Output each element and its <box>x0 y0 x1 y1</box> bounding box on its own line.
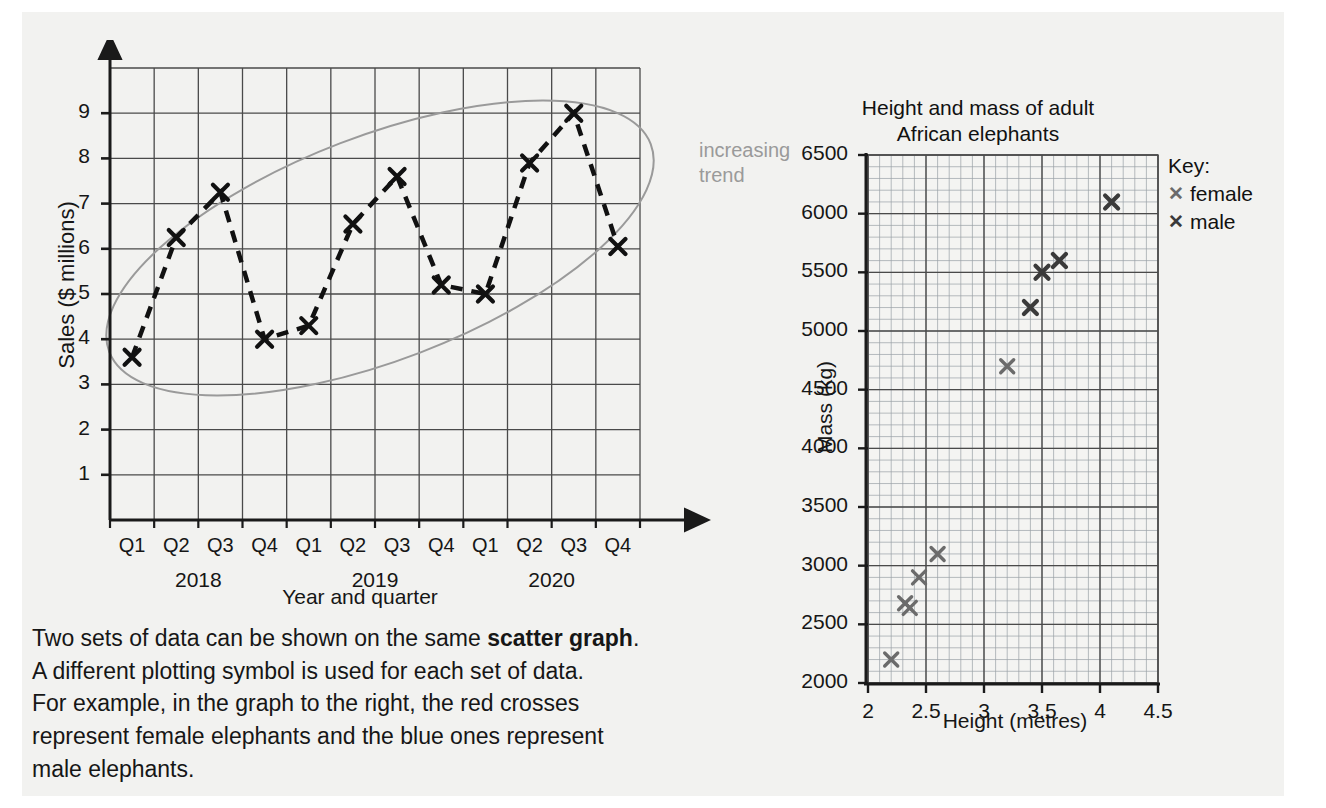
paragraph-line-4: represent female elephants and the blue … <box>32 720 772 753</box>
quarter-label-0: Q1 <box>109 534 155 557</box>
quarter-label-8: Q1 <box>462 534 508 557</box>
legend-item-female: ✕ female <box>1168 180 1253 208</box>
y-axis-title: Sales ($ millions) <box>54 140 80 430</box>
quarter-label-7: Q4 <box>418 534 464 557</box>
legend-title: Key: <box>1168 152 1253 180</box>
scatter-chart: Height and mass of adult African elephan… <box>790 95 1290 735</box>
mass-tick-label-2000: 2000 <box>776 669 848 693</box>
quarter-label-1: Q2 <box>153 534 199 557</box>
paragraph-line-2: A different plotting symbol is used for … <box>32 655 772 688</box>
paragraph-line-1-a: Two sets of data can be shown on the sam… <box>32 625 487 651</box>
paragraph-line-5: male elephants. <box>32 753 772 786</box>
quarter-label-5: Q2 <box>330 534 376 557</box>
paragraph-line-3: For example, in the graph to the right, … <box>32 687 772 720</box>
scatter-graph-term: scatter graph <box>487 625 633 651</box>
quarter-label-6: Q3 <box>374 534 420 557</box>
paragraph-line-1-c: . <box>633 625 639 651</box>
quarter-label-11: Q4 <box>595 534 641 557</box>
mass-tick-label-3000: 3000 <box>776 552 848 576</box>
mass-tick-label-6500: 6500 <box>776 141 848 165</box>
mass-tick-label-5500: 5500 <box>776 258 848 282</box>
y-tick-label-1: 1 <box>60 461 90 485</box>
mass-tick-label-5000: 5000 <box>776 317 848 341</box>
quarter-label-3: Q4 <box>242 534 288 557</box>
y-tick-label-9: 9 <box>60 99 90 123</box>
scatter-x-axis-title: Height (metres) <box>865 709 1165 733</box>
line-chart-canvas <box>40 40 740 600</box>
quarter-label-4: Q1 <box>286 534 332 557</box>
scatter-legend: Key: ✕ female ✕ male <box>1168 152 1253 236</box>
year-label-2020: 2020 <box>512 568 592 592</box>
mass-tick-label-3500: 3500 <box>776 493 848 517</box>
male-marker-icon: ✕ <box>1168 212 1184 231</box>
mass-tick-label-4000: 4000 <box>776 434 848 458</box>
line-chart: 123456789 Q1Q2Q3Q4Q1Q2Q3Q4Q1Q2Q3Q4 20182… <box>40 40 740 600</box>
mass-tick-label-4500: 4500 <box>776 376 848 400</box>
scatter-y-axis-title: Mass (kg) <box>813 307 837 507</box>
page-root: 123456789 Q1Q2Q3Q4Q1Q2Q3Q4Q1Q2Q3Q4 20182… <box>0 0 1326 808</box>
quarter-label-9: Q2 <box>507 534 553 557</box>
mass-tick-label-6000: 6000 <box>776 200 848 224</box>
female-marker-icon: ✕ <box>1168 184 1184 203</box>
mass-tick-label-2500: 2500 <box>776 610 848 634</box>
quarter-label-2: Q3 <box>197 534 243 557</box>
legend-label-female: female <box>1190 180 1253 208</box>
legend-label-male: male <box>1190 208 1236 236</box>
legend-item-male: ✕ male <box>1168 208 1253 236</box>
paragraph-line-1: Two sets of data can be shown on the sam… <box>32 622 772 655</box>
x-axis-title: Year and quarter <box>200 585 520 609</box>
explanatory-paragraph: Two sets of data can be shown on the sam… <box>32 622 772 785</box>
quarter-label-10: Q3 <box>551 534 597 557</box>
